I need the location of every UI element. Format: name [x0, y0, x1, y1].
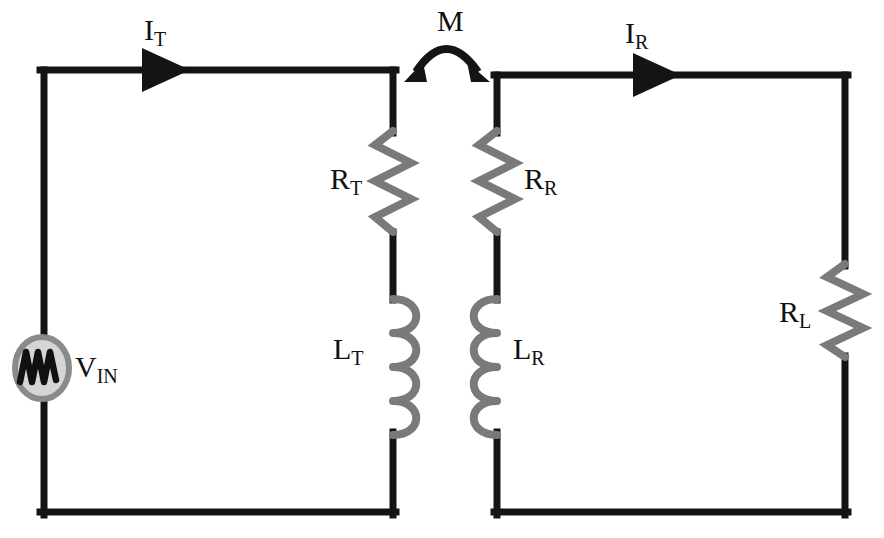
- zigzag-icon: [375, 131, 411, 232]
- triangle-right-icon: [142, 48, 190, 92]
- resistor-rr-symbol: [479, 131, 515, 232]
- circuit-diagram: IT M IR VIN RT RR LT LR RL: [0, 0, 884, 538]
- inductor-lt-symbol: [393, 299, 416, 435]
- zigzag-icon: [827, 264, 863, 357]
- resistor-rt-symbol: [375, 131, 411, 232]
- label-inductor-transmit: LT: [333, 332, 364, 369]
- label-resistor-transmit: RT: [330, 162, 362, 199]
- label-current-receive: IR: [625, 16, 649, 53]
- arrowhead-left-icon: [404, 62, 427, 82]
- inductor-lr-symbol: [474, 299, 497, 435]
- resistor-rl-symbol: [827, 264, 863, 357]
- current-arrow-ir: [633, 53, 681, 97]
- mutual-coupling-arrow: [404, 49, 490, 82]
- coil-icon: [474, 299, 497, 435]
- label-resistor-load: RL: [779, 295, 811, 332]
- label-mutual-inductance: M: [437, 4, 464, 37]
- zigzag-icon: [479, 131, 515, 232]
- ac-voltage-source: [15, 337, 69, 399]
- triangle-right-icon: [633, 53, 681, 97]
- label-resistor-receive: RR: [524, 162, 558, 199]
- label-source-voltage: VIN: [75, 350, 118, 387]
- label-inductor-receive: LR: [513, 332, 545, 369]
- circuit-svg-canvas: IT M IR VIN RT RR LT LR RL: [0, 0, 884, 538]
- transmitter-loop-wires: [40, 70, 396, 515]
- current-arrow-it: [142, 48, 190, 92]
- label-current-transmit: IT: [144, 13, 166, 50]
- coil-icon: [393, 299, 416, 435]
